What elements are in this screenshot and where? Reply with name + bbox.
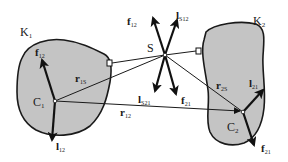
label-l12-body: l12 — [56, 140, 65, 153]
label-ls12: lS12 — [176, 9, 188, 22]
label-k2: K2 — [253, 14, 266, 29]
label-f21-body: f21 — [261, 142, 271, 155]
label-f21-joint: f21 — [181, 94, 191, 107]
free-body-diagram: K1 K2 C1 C2 S f12 l12 f12 lS12 lS21 f21 … — [0, 0, 288, 162]
label-s: S — [147, 41, 154, 55]
link-k2-s — [165, 51, 196, 55]
centroid-c2-point — [241, 110, 245, 114]
ls21-arrow — [155, 55, 165, 91]
label-r12: r12 — [120, 106, 131, 119]
f21-joint-arrow — [165, 55, 176, 94]
body-k1 — [17, 40, 111, 136]
joint-s-point — [163, 53, 167, 57]
label-k1: K1 — [20, 25, 33, 40]
attachment-k1 — [107, 60, 112, 66]
label-ls21: lS21 — [138, 93, 150, 106]
ls12-arrow — [165, 20, 177, 55]
link-k1-s — [112, 55, 165, 63]
label-f12-joint: f12 — [127, 15, 137, 28]
centroid-c1-point — [53, 99, 57, 103]
attachment-k2 — [196, 48, 201, 54]
f12-joint-arrow — [153, 18, 165, 55]
